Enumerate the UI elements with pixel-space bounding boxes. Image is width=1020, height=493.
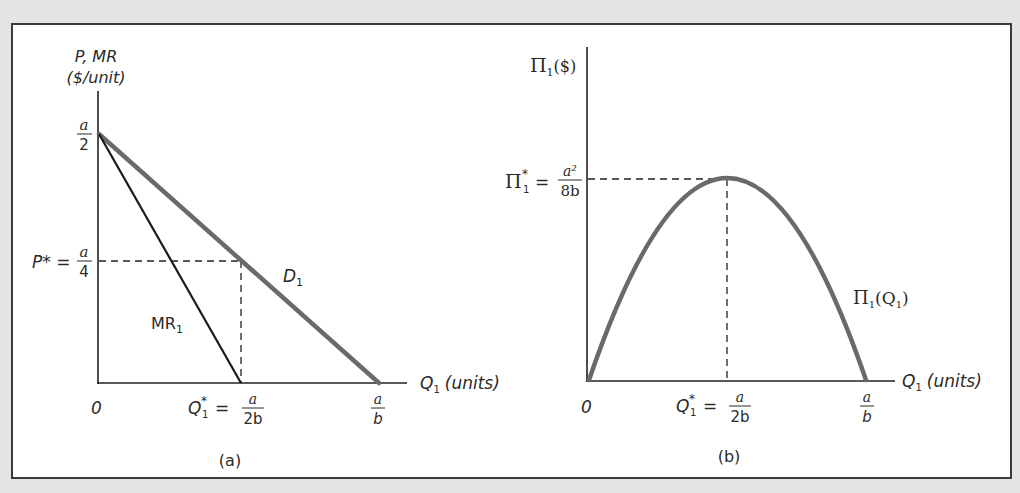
panel-a-caption: (a) xyxy=(219,451,241,470)
svg-text:a²: a² xyxy=(563,163,577,179)
svg-text:8b: 8b xyxy=(560,182,579,200)
panel-a-p-star-label: P* = a 4 xyxy=(32,243,92,281)
panel-a-x-label: Q1(units) xyxy=(420,373,500,395)
svg-text:4: 4 xyxy=(79,263,89,281)
panel-a-x-tick-a-over-b: a b xyxy=(371,391,385,428)
svg-text:P* =: P* = xyxy=(32,252,70,272)
panel-a-mr1-label: MR1 xyxy=(151,314,183,336)
panel-b-x-tick-a-over-b: a b xyxy=(860,389,874,426)
svg-text:2b: 2b xyxy=(243,410,262,428)
panel-a-q-star-label: Q * 1 = a 2b xyxy=(188,391,264,428)
svg-text:=: = xyxy=(535,172,549,192)
svg-text:2: 2 xyxy=(79,136,89,154)
panel-b-caption: (b) xyxy=(718,447,741,466)
panel-b-pi-star-label: Π * 1 = a² 8b xyxy=(505,163,582,200)
svg-text:1: 1 xyxy=(202,409,208,420)
svg-text:a: a xyxy=(249,391,257,407)
panel-a-mr-curve xyxy=(99,134,241,383)
figure-canvas: P, MR ($/unit) a 2 P* = a 4 D1 MR1 0 Q *… xyxy=(0,0,1020,493)
svg-text:a: a xyxy=(80,243,89,261)
svg-text:Π: Π xyxy=(505,170,522,192)
svg-text:=: = xyxy=(703,396,717,416)
svg-text:a: a xyxy=(863,389,871,405)
svg-text:a: a xyxy=(736,389,744,405)
panel-b: Π1($) Π * 1 = a² 8b Π1(Q1) 0 Q * 1 = a 2… xyxy=(505,47,982,466)
panel-b-origin: 0 xyxy=(581,397,592,417)
panel-b-x-label: Q1(units) xyxy=(902,371,982,393)
svg-text:*: * xyxy=(522,167,528,181)
svg-text:*: * xyxy=(689,392,695,406)
svg-text:b: b xyxy=(373,410,383,428)
panel-a-y-label-line1: P, MR xyxy=(75,47,118,66)
panel-a: P, MR ($/unit) a 2 P* = a 4 D1 MR1 0 Q *… xyxy=(32,47,500,470)
panel-a-d1-label: D1 xyxy=(283,266,303,289)
svg-text:a: a xyxy=(80,116,89,134)
svg-text:1: 1 xyxy=(690,407,696,418)
svg-text:a: a xyxy=(374,391,382,407)
svg-text:Q: Q xyxy=(676,396,689,416)
panel-b-curve-label: Π1(Q1) xyxy=(853,287,909,310)
svg-text:1: 1 xyxy=(523,184,529,195)
svg-text:*: * xyxy=(201,394,207,408)
panel-a-origin: 0 xyxy=(91,398,102,418)
panel-a-y-tick-a-over-2: a 2 xyxy=(77,116,92,154)
panel-b-y-label: Π1($) xyxy=(530,54,576,79)
panel-a-y-label-line2: ($/unit) xyxy=(66,68,125,87)
svg-text:2b: 2b xyxy=(730,408,749,426)
panel-a-demand-curve xyxy=(99,134,379,383)
svg-text:=: = xyxy=(215,398,229,418)
panel-b-q-star-label: Q * 1 = a 2b xyxy=(676,389,751,426)
svg-text:b: b xyxy=(862,408,872,426)
svg-text:Q: Q xyxy=(188,398,201,418)
